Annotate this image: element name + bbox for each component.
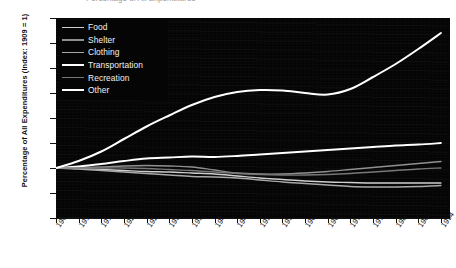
legend-label: Clothing: [88, 47, 120, 57]
chart-legend: FoodShelterClothingTransportationRecreat…: [60, 20, 168, 100]
series-line-transportation: [56, 143, 441, 168]
legend-label: Transportation: [88, 60, 143, 70]
legend-item-transportation: Transportation: [62, 59, 166, 72]
legend-swatch: [62, 39, 84, 40]
legend-swatch: [62, 64, 84, 66]
legend-label: Recreation: [88, 73, 130, 83]
legend-label: Other: [88, 85, 109, 95]
legend-item-clothing: Clothing: [62, 46, 166, 59]
legend-item-recreation: Recreation: [62, 71, 166, 84]
legend-label: Food: [88, 22, 108, 32]
legend-swatch: [62, 89, 84, 91]
legend-swatch: [62, 77, 84, 78]
legend-item-other: Other: [62, 84, 166, 97]
series-line-food: [56, 168, 441, 183]
legend-item-food: Food: [62, 21, 166, 34]
legend-item-shelter: Shelter: [62, 34, 166, 47]
legend-label: Shelter: [88, 35, 115, 45]
legend-swatch: [62, 27, 84, 28]
x-axis-line: [56, 218, 450, 219]
clipped-title-fragment: Percentage of All Expenditures: [86, 0, 286, 8]
y-axis-label: Percentage of All Expenditures (Index: 1…: [20, 1, 29, 201]
legend-swatch: [62, 52, 84, 53]
